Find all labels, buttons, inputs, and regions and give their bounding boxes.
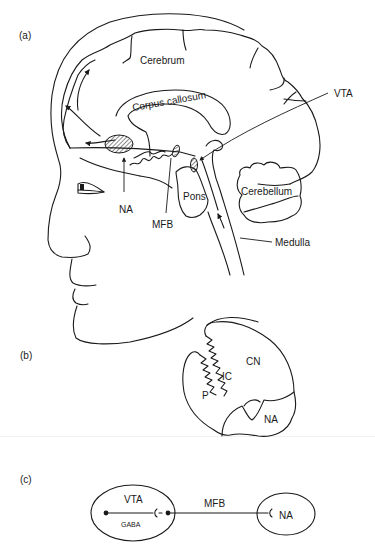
nucleus-accumbens-boundary xyxy=(222,392,294,436)
pons-label: Pons xyxy=(183,191,206,202)
na-label-b: NA xyxy=(264,414,278,425)
panel-a-label: (a) xyxy=(19,30,31,41)
gaba-label: GABA xyxy=(121,521,141,528)
cerebellum-fold xyxy=(244,196,298,212)
medulla-arrow xyxy=(218,214,224,228)
cn-label: CN xyxy=(246,356,260,367)
brain-reward-diagram: (a) Corpus callosum Cerebrum xyxy=(0,0,375,559)
na-node-label: NA xyxy=(279,510,293,521)
sulcus-line xyxy=(183,30,186,50)
vta-node-label: VTA xyxy=(124,494,143,505)
mfb-node-label: MFB xyxy=(204,498,225,509)
panel-a: (a) Corpus callosum Cerebrum xyxy=(19,14,353,344)
eye-icon xyxy=(78,182,104,193)
panel-b: (b) CN IC P NA xyxy=(20,322,296,437)
panel-c: (c) VTA GABA MFB NA xyxy=(20,474,315,541)
sulcus-line xyxy=(284,92,296,104)
brainstem xyxy=(208,212,230,275)
inhibitory-synapse xyxy=(155,509,157,517)
corpus-callosum-label: Corpus callosum xyxy=(131,89,206,113)
cerebrum-lower xyxy=(80,158,140,176)
excitatory-synapse xyxy=(270,509,272,517)
brainstem xyxy=(206,140,244,275)
sulcus-line xyxy=(250,48,258,68)
nucleus-accumbens-boundary xyxy=(244,400,260,406)
na-region xyxy=(105,135,133,153)
na-label: NA xyxy=(119,204,133,215)
projection-arrow xyxy=(77,70,89,110)
frontal-gyrus xyxy=(63,60,95,148)
cerebellum-label: Cerebellum xyxy=(241,186,292,197)
medulla-pointer xyxy=(240,238,272,242)
mfb-pointer xyxy=(166,158,171,213)
brainstem xyxy=(140,176,172,188)
ic-label: IC xyxy=(222,371,232,382)
panel-c-label: (c) xyxy=(20,474,32,485)
medulla-label: Medulla xyxy=(275,237,310,248)
internal-capsule-boundary xyxy=(206,336,227,396)
internal-capsule-boundary xyxy=(200,355,216,395)
mfb-node xyxy=(171,144,181,157)
brainstem xyxy=(201,158,218,210)
sulcus-line xyxy=(270,78,284,90)
neck-outline xyxy=(207,317,258,325)
mfb-label: MFB xyxy=(152,219,173,230)
projection-arrow xyxy=(66,106,100,136)
panel-b-label: (b) xyxy=(20,350,32,361)
striatum-outline xyxy=(183,322,296,437)
sulcus-line xyxy=(123,36,132,63)
vta-label: VTA xyxy=(334,88,353,99)
cerebrum-label: Cerebrum xyxy=(140,55,184,66)
p-label: P xyxy=(202,390,209,401)
striatum-lines xyxy=(130,154,172,165)
